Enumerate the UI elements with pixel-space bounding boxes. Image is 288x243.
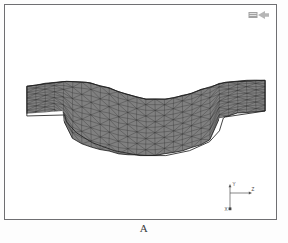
triad-label-y: Y [232, 182, 235, 187]
triad-label-x: X [224, 207, 227, 212]
triad-label-z: Z [252, 187, 255, 192]
coordinate-triad: Y Z X [222, 181, 262, 213]
plot-frame: Y Z X [4, 4, 277, 220]
figure-root: Y Z X A [0, 0, 288, 243]
software-logo-icon [248, 9, 270, 22]
mesh-notch [217, 112, 265, 154]
mesh-notch [23, 111, 65, 150]
mesh-group [23, 80, 265, 155]
figure-caption: A [0, 222, 288, 234]
